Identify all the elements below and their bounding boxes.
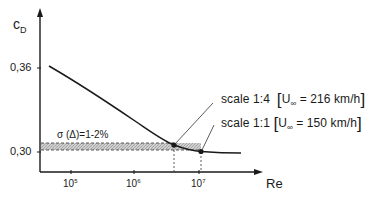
leader-line-scale-1-4 bbox=[175, 103, 213, 144]
x-tick-label-1e7: 107 bbox=[191, 178, 205, 189]
x-axis-label: Re bbox=[266, 176, 283, 191]
sigma-band-label: σ (Δ)=1-2% bbox=[57, 129, 108, 140]
y-axis-arrow-icon bbox=[37, 8, 43, 17]
leader-line-scale-1-1 bbox=[202, 125, 214, 150]
point-scale-1-1 bbox=[198, 149, 203, 154]
x-tick-label-1e5: 105 bbox=[63, 178, 77, 189]
annotation-scale-1-1: scale 1:1 [U∞ = 150 km/h] bbox=[221, 114, 362, 134]
annotation-scale-1-4: scale 1:4 [U∞ = 216 km/h] bbox=[221, 90, 365, 110]
y-axis-label: cD bbox=[13, 16, 27, 35]
x-tick-label-1e6: 106 bbox=[126, 178, 140, 189]
x-axis-arrow-icon bbox=[254, 169, 263, 175]
y-tick-label-030: 0,30 bbox=[10, 145, 31, 157]
y-tick-label-036: 0,36 bbox=[10, 61, 31, 73]
